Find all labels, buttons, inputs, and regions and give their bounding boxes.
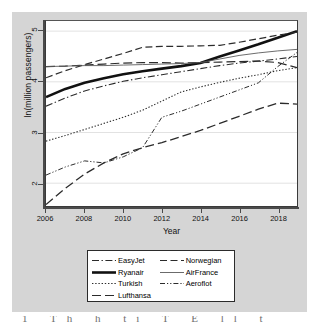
y-tick-label: 4 [10, 76, 36, 85]
x-tick [45, 208, 46, 213]
legend-row: Lufthansa [92, 290, 231, 302]
x-tick [123, 208, 124, 213]
y-tick [38, 133, 44, 134]
legend-swatch-easyjet [92, 255, 118, 267]
series-line-turkish [46, 68, 297, 141]
x-tick [279, 208, 280, 213]
legend-label-airfrance: AirFrance [186, 267, 231, 279]
legend-swatch-ryanair [92, 267, 118, 279]
x-tick-label: 2014 [184, 214, 218, 223]
y-tick [38, 81, 44, 82]
legend-swatch-norwegian [160, 255, 186, 267]
y-tick-label: 2 [10, 179, 36, 188]
y-tick [38, 30, 44, 31]
x-axis-title: Year [45, 226, 298, 236]
x-tick-label: 2018 [262, 214, 296, 223]
x-tick-label: 2016 [223, 214, 257, 223]
legend-table: EasyJetNorwegianRyanairAirFranceTurkishA… [92, 255, 231, 301]
series-line-aeroflot [46, 52, 297, 175]
legend-label-ryanair: Ryanair [118, 267, 160, 279]
series-canvas [46, 21, 297, 206]
legend-label-aeroflot: Aeroflot [186, 278, 231, 290]
y-tick [38, 184, 44, 185]
x-axis-line [43, 207, 299, 209]
chart-figure: ln(million passengers) 2345 200620082010… [0, 0, 319, 324]
legend-row: EasyJetNorwegian [92, 255, 231, 267]
legend-row: RyanairAirFrance [92, 267, 231, 279]
legend-row: TurkishAeroflot [92, 278, 231, 290]
plot-area [45, 20, 298, 207]
series-line-airfrance [46, 49, 297, 66]
x-tick [84, 208, 85, 213]
x-tick [162, 208, 163, 213]
x-tick-label: 2008 [67, 214, 101, 223]
legend-swatch-lufthansa [92, 290, 118, 302]
legend-swatch-airfrance [160, 267, 186, 279]
y-tick-label: 5 [10, 25, 36, 34]
legend-label-norwegian: Norwegian [186, 255, 231, 267]
series-line-lufthansa-lower [46, 103, 297, 204]
x-tick-label: 2006 [28, 214, 62, 223]
legend-label-empty [186, 290, 231, 302]
x-tick-label: 2010 [106, 214, 140, 223]
legend-label-easyjet: EasyJet [118, 255, 160, 267]
legend-swatch-turkish [92, 278, 118, 290]
series-line-norwegian [46, 32, 297, 78]
figure-canvas: ln(million passengers) 2345 200620082010… [12, 12, 307, 312]
chart-legend: EasyJetNorwegianRyanairAirFranceTurkishA… [87, 250, 235, 302]
legend-swatch-empty [160, 290, 186, 302]
legend-label-turkish: Turkish [118, 278, 160, 290]
y-tick-label: 3 [10, 128, 36, 137]
caption-text: 1 Th h ti T E ll t [22, 316, 273, 324]
figure-caption-cropped: 1 Th h ti T E ll t [12, 316, 307, 324]
x-tick-label: 2012 [145, 214, 179, 223]
legend-swatch-aeroflot [160, 278, 186, 290]
x-tick [240, 208, 241, 213]
x-tick [201, 208, 202, 213]
legend-label-lufthansa: Lufthansa [118, 290, 160, 302]
